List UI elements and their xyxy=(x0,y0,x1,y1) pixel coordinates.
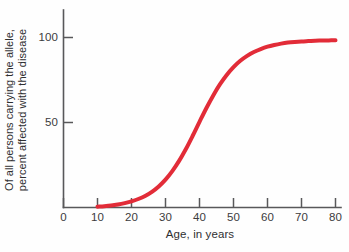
x-axis-title: Age, in years xyxy=(166,228,235,240)
y-tick-label-100: 100 xyxy=(39,31,59,43)
chart-plot-area: Of all persons carrying the allele, perc… xyxy=(0,0,349,252)
x-tick-label-50: 50 xyxy=(227,211,240,223)
x-tick-label-40: 40 xyxy=(193,211,206,223)
data-series-line xyxy=(98,40,336,206)
x-tick-label-80: 80 xyxy=(329,211,342,223)
y-axis-title: Of all persons carrying the allele, perc… xyxy=(3,29,28,191)
x-tick-label-60: 60 xyxy=(261,211,274,223)
x-tick-label-10: 10 xyxy=(91,211,104,223)
y-tick-label-50: 50 xyxy=(45,116,58,128)
chart-figure: Of all persons carrying the allele, perc… xyxy=(0,0,349,252)
x-tick-label-30: 30 xyxy=(159,211,172,223)
y-axis-title-line1: Of all persons carrying the allele, xyxy=(3,29,15,191)
x-tick-label-0: 0 xyxy=(60,211,67,223)
y-axis-title-line2: percent affected with the disease xyxy=(16,29,28,191)
x-tick-label-20: 20 xyxy=(125,211,138,223)
x-tick-label-70: 70 xyxy=(295,211,308,223)
